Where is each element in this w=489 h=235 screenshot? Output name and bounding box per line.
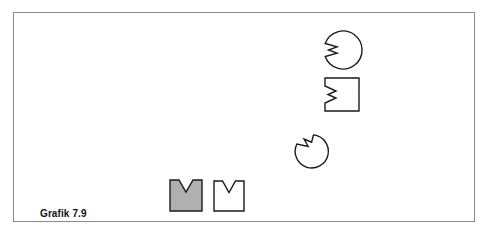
figure-frame: Vsn M F Frm [13,12,475,222]
shape-vsn[interactable]: Vsn [323,30,363,70]
figure-caption: Grafik 7.9 [40,208,87,219]
shape-gray-block[interactable] [169,179,203,212]
shape-f[interactable]: F [293,134,328,169]
shape-frm[interactable]: Frm [213,180,245,212]
shape-m[interactable]: M [324,77,360,112]
figure-page: Vsn M F Frm [0,0,489,235]
